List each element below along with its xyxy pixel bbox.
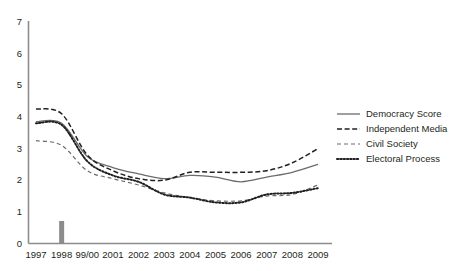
legend-item-democracy-score[interactable]: Democracy Score bbox=[336, 106, 451, 121]
year-marker-1998 bbox=[59, 221, 64, 244]
legend-label: Independent Media bbox=[366, 124, 447, 134]
y-axis-tick-label: 3 bbox=[8, 144, 22, 154]
annotations-layer bbox=[59, 221, 64, 244]
legend-label: Democracy Score bbox=[366, 109, 442, 119]
legend-label: Electoral Process bbox=[366, 154, 440, 164]
chart-container: 01234567 1997199899/00200120022003200420… bbox=[0, 0, 451, 271]
chart-legend: Democracy ScoreIndependent MediaCivil So… bbox=[336, 106, 451, 166]
legend-label: Civil Society bbox=[366, 139, 418, 149]
y-axis-tick-label: 4 bbox=[8, 112, 22, 122]
series-layer bbox=[36, 109, 318, 203]
y-axis-tick-label: 1 bbox=[8, 207, 22, 217]
y-axis-tick-label: 5 bbox=[8, 80, 22, 90]
y-axis-tick-label: 6 bbox=[8, 49, 22, 59]
legend-swatch-icon bbox=[336, 154, 361, 164]
y-axis-tick-label: 2 bbox=[8, 175, 22, 185]
legend-item-electoral-process[interactable]: Electoral Process bbox=[336, 151, 451, 166]
y-axis-tick-label: 7 bbox=[8, 17, 22, 27]
legend-swatch-icon bbox=[336, 109, 361, 119]
legend-swatch-icon bbox=[336, 139, 361, 149]
y-axis-tick-label: 0 bbox=[8, 239, 22, 249]
series-line-democracy-score bbox=[36, 120, 318, 182]
legend-swatch-icon bbox=[336, 124, 361, 134]
legend-item-civil-society[interactable]: Civil Society bbox=[336, 136, 451, 151]
legend-item-independent-media[interactable]: Independent Media bbox=[336, 121, 451, 136]
x-axis-tick-label: 2009 bbox=[298, 250, 338, 260]
